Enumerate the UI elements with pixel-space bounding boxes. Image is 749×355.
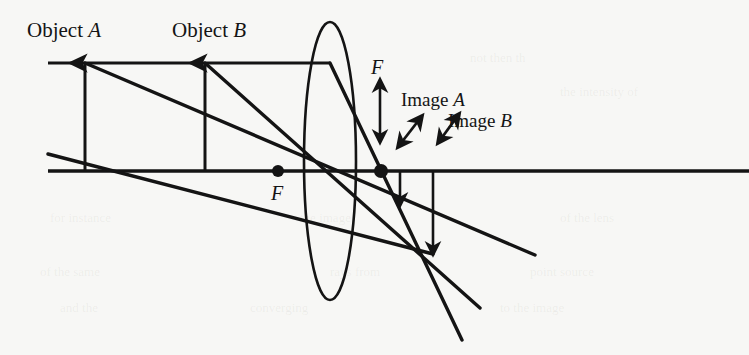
object-b-label-letter: B: [233, 18, 246, 42]
bleed-through-text: converging: [250, 300, 309, 315]
focal-point-left-dot: [272, 165, 284, 177]
bleed-through-text: of the same: [40, 264, 100, 279]
bleed-through-text: not then th: [470, 50, 526, 65]
object-a-label-letter: A: [88, 18, 101, 42]
bleed-through-text: of the lens: [560, 210, 614, 225]
figure-canvas: not then ththe intensity offor instancet…: [0, 0, 749, 355]
image-b-label-letter: B: [500, 110, 512, 131]
image-b-label: Image B: [448, 111, 512, 130]
image-a-label-letter: A: [453, 89, 465, 110]
bleed-through-text: rays from: [330, 264, 380, 279]
object-a-label-text: Object: [27, 18, 83, 42]
object-a-label: Object A: [27, 20, 101, 41]
image-a-label-text: Image: [401, 89, 448, 110]
image-b-label-text: Image: [448, 110, 495, 131]
bleed-through-text: and the: [60, 300, 98, 315]
bleed-through-text: point source: [530, 264, 594, 279]
focal-right-label: F: [371, 57, 383, 77]
bleed-through-text: the intensity of: [560, 84, 639, 99]
object-b-label: Object B: [172, 20, 246, 41]
focal-point-right-dot: [374, 164, 388, 178]
focal-left-label: F: [271, 183, 283, 203]
image-a-pointer-arrow: [398, 116, 422, 147]
bleed-through-text: for instance: [50, 210, 111, 225]
object-b-label-text: Object: [172, 18, 228, 42]
ray-object-a: [85, 63, 535, 255]
image-a-label: Image A: [401, 90, 465, 109]
bleed-through-text: to the image: [500, 300, 564, 315]
ray-diagram: not then ththe intensity offor instancet…: [0, 0, 749, 355]
